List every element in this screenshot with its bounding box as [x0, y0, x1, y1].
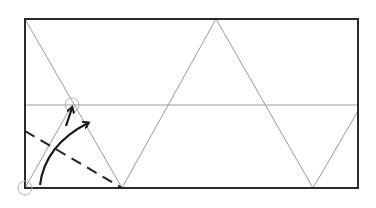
fold-diagram — [0, 0, 376, 208]
zigzag-crease — [25, 19, 358, 188]
valley-fold-line — [25, 131, 122, 188]
paper-outline — [25, 19, 358, 188]
corner-crease — [25, 105, 72, 188]
diagram-canvas — [0, 0, 376, 208]
